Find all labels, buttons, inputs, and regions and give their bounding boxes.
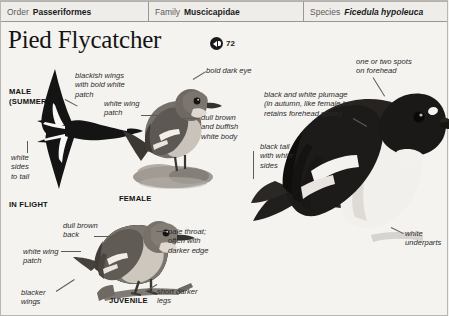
leader-line-white-wing-patch-juvenile <box>61 251 81 252</box>
annotation-blackish-wings: blackish wings with bold white patch <box>75 71 125 99</box>
annotation-black-white-plumage: black and white plumage (in autumn, like… <box>264 90 353 118</box>
taxonomy-cell-family: Family Muscicapidae <box>149 1 304 21</box>
taxonomy-cell-order: Order Passeriformes <box>1 1 149 21</box>
taxonomy-value-family: Muscicapidae <box>184 7 240 17</box>
caption-male-summer: MALE (SUMMER) <box>9 87 49 106</box>
taxonomy-cell-species: Species Ficedula hypoleuca <box>304 1 447 21</box>
taxonomy-value-species: Ficedula hypoleuca <box>344 7 423 17</box>
caption-in-flight: IN FLIGHT <box>9 200 48 210</box>
annotation-dull-brown-buffish: dull brown and buffish white body <box>201 113 238 141</box>
page-title: Pied Flycatcher <box>8 26 161 54</box>
caption-female: FEMALE <box>119 194 151 204</box>
annotation-black-tail-white-sides: black tail with white sides <box>260 142 293 170</box>
leader-line-pale-throat <box>156 231 166 232</box>
speaker-icon <box>210 37 223 50</box>
annotation-white-wing-patch-female: white wing patch <box>104 99 139 118</box>
annotation-bold-dark-eye: bold dark eye <box>206 66 252 75</box>
annotation-white-wing-patch-juvenile: white wing patch <box>23 247 58 266</box>
caption-juvenile: JUVENILE <box>109 296 148 306</box>
taxonomy-label-order: Order <box>7 7 29 17</box>
taxonomy-label-family: Family <box>155 7 180 17</box>
leader-line-black-tail-white-sides <box>253 151 254 179</box>
annotation-forehead-spots: one or two spots on forehead <box>356 57 412 76</box>
leader-line-dull-brown-back <box>94 236 116 237</box>
leader-line-blacker-wings <box>56 279 75 292</box>
leader-line-dull-brown-buffish <box>183 118 199 119</box>
audio-track-indicator[interactable]: 72 <box>210 37 235 50</box>
taxonomy-value-order: Passeriformes <box>33 7 92 17</box>
annotation-blacker-wings: blacker wings <box>21 288 45 307</box>
leader-line-white-wing-patch-female <box>141 115 161 116</box>
annotation-pale-throat: pale throat; often with darker edge <box>168 227 209 255</box>
taxonomy-label-species: Species <box>310 7 340 17</box>
taxonomy-header: Order Passeriformes Family Muscicapidae … <box>1 1 447 22</box>
leader-line-white-sides-to-tail <box>27 141 28 153</box>
audio-track-number: 72 <box>226 39 235 48</box>
annotation-short-darker-legs: short darker legs <box>157 287 198 306</box>
annotation-white-underparts: white underparts <box>405 229 441 248</box>
annotation-white-sides-to-tail: white sides to tail <box>11 153 29 181</box>
annotation-dull-brown-back: dull brown back <box>63 221 98 240</box>
